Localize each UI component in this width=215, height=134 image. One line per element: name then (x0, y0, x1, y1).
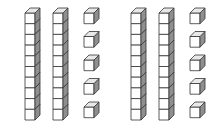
tens-rod (159, 8, 174, 120)
ones-cube (84, 8, 99, 24)
ones-cube (84, 79, 99, 95)
ones-cube (190, 79, 205, 95)
ones-cube (84, 32, 99, 48)
ones-cube (190, 32, 205, 48)
tens-rod (131, 8, 146, 120)
ones-cube (190, 55, 205, 71)
ones-cube (190, 8, 205, 24)
ones-cube (84, 102, 99, 118)
block-group-1 (25, 8, 99, 120)
base-ten-blocks-diagram (0, 0, 215, 134)
block-group-2 (131, 8, 205, 120)
tens-rod (25, 8, 40, 120)
ones-cube (84, 55, 99, 71)
tens-rod (53, 8, 68, 120)
ones-cube (190, 102, 205, 118)
